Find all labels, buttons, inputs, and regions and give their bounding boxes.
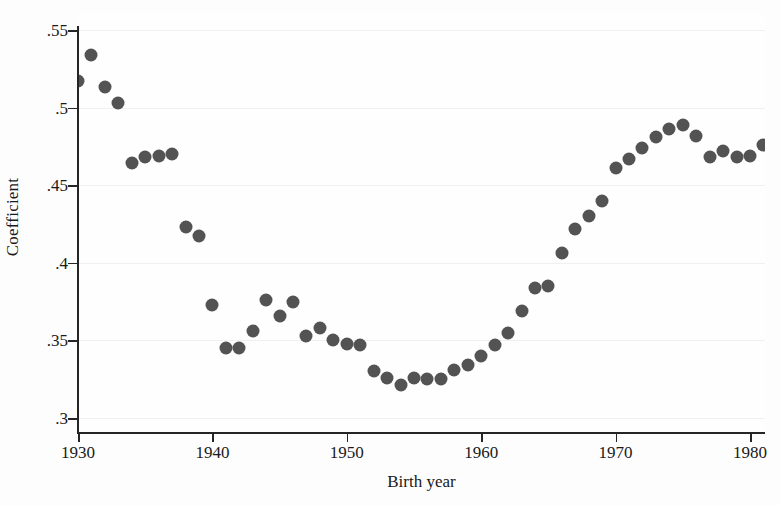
data-point bbox=[219, 342, 232, 355]
data-point bbox=[488, 339, 501, 352]
y-axis-title: Coefficient bbox=[0, 0, 26, 433]
y-tick-mark bbox=[68, 108, 77, 110]
y-tick-label: .35 bbox=[22, 332, 68, 349]
data-point bbox=[730, 151, 743, 164]
x-tick-label: 1970 bbox=[599, 444, 633, 461]
data-point bbox=[663, 123, 676, 136]
x-tick-mark bbox=[78, 433, 80, 442]
data-point bbox=[649, 131, 662, 144]
gridline bbox=[78, 108, 765, 109]
y-tick-label: .5 bbox=[22, 99, 68, 116]
y-tick-label: .3 bbox=[22, 410, 68, 427]
data-point bbox=[448, 363, 461, 376]
x-tick-label: 1950 bbox=[330, 444, 364, 461]
data-point bbox=[569, 222, 582, 235]
data-point bbox=[475, 349, 488, 362]
data-point bbox=[300, 329, 313, 342]
x-tick-mark bbox=[481, 433, 483, 442]
data-point bbox=[676, 118, 689, 131]
data-point bbox=[78, 75, 85, 88]
data-point bbox=[408, 371, 421, 384]
data-point bbox=[166, 148, 179, 161]
x-tick-mark bbox=[212, 433, 214, 442]
y-tick-mark bbox=[68, 263, 77, 265]
scatter-plot-figure: .3.35.4.45.5.55 193019401950196019701980… bbox=[0, 0, 781, 505]
data-point bbox=[327, 334, 340, 347]
y-axis-line bbox=[77, 26, 79, 434]
data-point bbox=[152, 149, 165, 162]
data-point bbox=[206, 298, 219, 311]
data-point bbox=[555, 247, 568, 260]
y-tick-label: .55 bbox=[22, 22, 68, 39]
data-point bbox=[717, 145, 730, 158]
gridline bbox=[78, 340, 765, 341]
x-tick-mark bbox=[347, 433, 349, 442]
data-point bbox=[287, 295, 300, 308]
y-tick-mark bbox=[68, 185, 77, 187]
x-axis-line bbox=[77, 432, 765, 434]
data-point bbox=[542, 280, 555, 293]
x-tick-label: 1980 bbox=[733, 444, 767, 461]
data-point bbox=[125, 157, 138, 170]
data-point bbox=[381, 371, 394, 384]
data-point bbox=[690, 129, 703, 142]
data-point bbox=[515, 304, 528, 317]
data-point bbox=[421, 373, 434, 386]
data-point bbox=[112, 96, 125, 109]
x-axis-title: Birth year bbox=[78, 472, 765, 492]
gridline bbox=[78, 30, 765, 31]
y-tick-mark bbox=[68, 340, 77, 342]
gridline bbox=[78, 418, 765, 419]
data-point bbox=[233, 342, 246, 355]
data-point bbox=[179, 221, 192, 234]
y-tick-label: .45 bbox=[22, 177, 68, 194]
plot-area bbox=[78, 12, 765, 433]
y-tick-mark bbox=[68, 30, 77, 32]
data-point bbox=[703, 151, 716, 164]
data-point bbox=[744, 149, 757, 162]
data-point bbox=[636, 141, 649, 154]
gridline bbox=[78, 263, 765, 264]
x-tick-label: 1940 bbox=[195, 444, 229, 461]
data-point bbox=[434, 373, 447, 386]
data-point bbox=[609, 162, 622, 175]
x-tick-mark bbox=[750, 433, 752, 442]
data-point bbox=[246, 325, 259, 338]
data-point bbox=[340, 337, 353, 350]
gridline bbox=[78, 185, 765, 186]
data-point bbox=[461, 359, 474, 372]
x-tick-label: 1960 bbox=[464, 444, 498, 461]
y-tick-label: .4 bbox=[22, 254, 68, 271]
x-tick-label: 1930 bbox=[61, 444, 95, 461]
data-point bbox=[98, 81, 111, 94]
y-tick-mark bbox=[68, 418, 77, 420]
data-point bbox=[354, 339, 367, 352]
data-point bbox=[757, 138, 765, 151]
y-axis-title-text: Coefficient bbox=[3, 177, 23, 255]
data-point bbox=[367, 365, 380, 378]
data-point bbox=[192, 230, 205, 243]
data-point bbox=[85, 48, 98, 61]
data-point bbox=[139, 151, 152, 164]
data-point bbox=[596, 194, 609, 207]
data-point bbox=[528, 281, 541, 294]
x-tick-mark bbox=[616, 433, 618, 442]
x-tick-labels: 193019401950196019701980 bbox=[0, 444, 781, 470]
data-point bbox=[582, 210, 595, 223]
data-point bbox=[623, 152, 636, 165]
data-point bbox=[273, 309, 286, 322]
data-point bbox=[313, 321, 326, 334]
data-point bbox=[260, 294, 273, 307]
data-point bbox=[394, 379, 407, 392]
data-point bbox=[502, 326, 515, 339]
